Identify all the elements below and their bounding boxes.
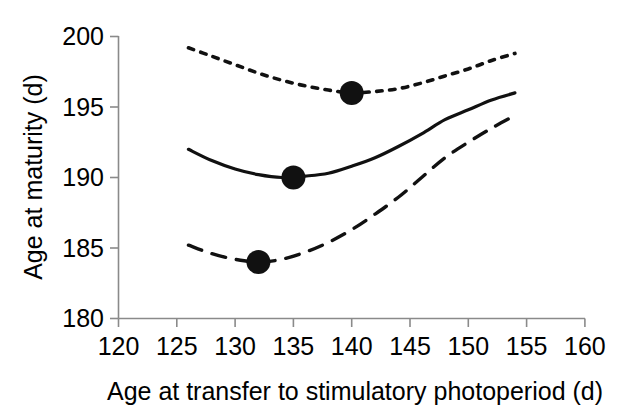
data-point-marker: [246, 250, 270, 274]
x-tick-label-145: 145: [389, 332, 431, 360]
y-tick-label-190: 190: [62, 163, 104, 191]
y-axis-ticks: [110, 37, 119, 319]
x-tick-label-125: 125: [156, 332, 198, 360]
x-tick-label-150: 150: [447, 332, 489, 360]
x-tick-label-120: 120: [98, 332, 140, 360]
chart-figure: 200 195 190 185 180 120 125 130 135 140 …: [0, 0, 630, 419]
x-tick-label-160: 160: [564, 332, 606, 360]
y-tick-label-185: 185: [62, 234, 104, 262]
x-axis-title: Age at transfer to stimulatory photoperi…: [107, 377, 603, 405]
data-point-marker: [281, 166, 305, 190]
x-tick-label-135: 135: [273, 332, 315, 360]
x-tick-label-155: 155: [506, 332, 548, 360]
y-tick-label-195: 195: [62, 93, 104, 121]
plot-area: 200 195 190 185 180 120 125 130 135 140 …: [0, 0, 630, 419]
x-tick-label-130: 130: [214, 332, 256, 360]
data-curve-solid: [188, 93, 514, 178]
data-point-markers: [246, 81, 363, 274]
x-axis-tick-labels: 120 125 130 135 140 145 150 155 160: [98, 332, 606, 360]
y-tick-label-180: 180: [62, 304, 104, 332]
y-axis-tick-labels: 200 195 190 185 180: [62, 22, 104, 332]
y-tick-label-200: 200: [62, 22, 104, 50]
data-curve-dashed: [188, 115, 514, 262]
y-axis-title: Age at maturity (d): [19, 74, 47, 280]
data-point-marker: [340, 81, 364, 105]
x-axis-ticks: [119, 319, 585, 328]
x-tick-label-140: 140: [331, 332, 373, 360]
